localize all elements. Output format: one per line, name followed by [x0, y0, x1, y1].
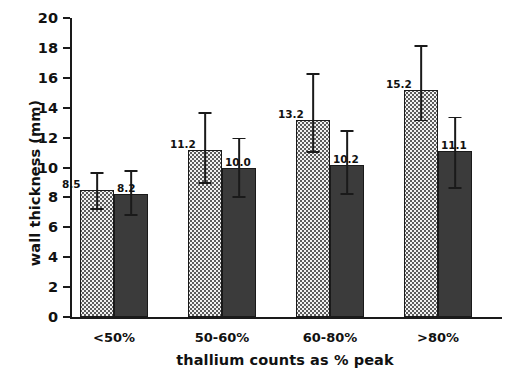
error-bar-cap-upper	[233, 138, 246, 140]
bar-value-label: 15.2	[386, 79, 412, 90]
bar-group: 13.210.2	[296, 18, 364, 317]
bar-value-label: 11.2	[170, 139, 196, 150]
error-bar-cap-lower	[341, 193, 354, 195]
error-bar-cap-upper	[199, 112, 212, 114]
error-bar-cap-lower	[199, 182, 212, 184]
error-bar-cap-upper	[449, 117, 462, 119]
y-axis-tick-label: 10	[38, 160, 58, 175]
y-axis-tick-label: 4	[48, 250, 58, 265]
error-bar	[204, 112, 206, 182]
error-bar-cap-lower	[91, 208, 104, 210]
y-axis-tick-mark	[63, 167, 70, 169]
y-axis-tick-label: 6	[48, 220, 58, 235]
y-axis-title: wall thickness (mm)	[27, 53, 43, 313]
bar-value-label: 8.5	[62, 179, 81, 190]
y-axis-tick-mark	[63, 17, 70, 19]
y-axis-tick-label: 16	[38, 71, 58, 86]
y-axis-tick-label: 14	[38, 100, 58, 115]
bar-value-label: 10.0	[225, 157, 251, 168]
y-axis-line	[70, 18, 72, 319]
y-axis-tick-label: 18	[38, 41, 58, 56]
y-axis-tick-mark	[63, 256, 70, 258]
x-axis-category-label: 60-80%	[303, 330, 358, 345]
y-axis-tick-label: 20	[38, 11, 58, 26]
y-axis-tick-mark	[63, 47, 70, 49]
y-axis-tick-mark	[63, 226, 70, 228]
y-axis-tick-mark	[63, 77, 70, 79]
y-axis-tick-mark	[63, 316, 70, 318]
error-bar-cap-lower	[415, 120, 428, 122]
y-axis-tick-mark	[63, 286, 70, 288]
y-axis-tick-label: 12	[38, 130, 58, 145]
error-bar-cap-lower	[449, 187, 462, 189]
error-bar-cap-lower	[125, 214, 138, 216]
x-axis-title: thallium counts as % peak	[70, 352, 500, 368]
x-axis-category-label: >80%	[417, 330, 459, 345]
error-bar-cap-lower	[233, 196, 246, 198]
bar-value-label: 13.2	[278, 109, 304, 120]
y-axis-tick-label: 8	[48, 190, 58, 205]
error-bar-cap-upper	[125, 170, 138, 172]
error-bar	[96, 172, 98, 208]
bar-value-label: 11.1	[441, 140, 467, 151]
y-axis-tick-mark	[63, 196, 70, 198]
bar-group: 15.211.1	[404, 18, 472, 317]
error-bar-cap-upper	[415, 45, 428, 47]
error-bar	[454, 117, 456, 187]
error-bar-cap-upper	[341, 130, 354, 132]
y-axis-tick-mark	[63, 107, 70, 109]
bar-group: 11.210.0	[188, 18, 256, 317]
y-axis-tick-label: 2	[48, 280, 58, 295]
error-bar-cap-upper	[307, 73, 320, 75]
x-axis-category-label: <50%	[93, 330, 135, 345]
x-axis-category-label: 50-60%	[195, 330, 250, 345]
error-bar	[420, 45, 422, 120]
error-bar	[312, 73, 314, 151]
x-axis-line	[70, 317, 502, 319]
y-axis-tick-mark	[63, 137, 70, 139]
y-axis-tick-label: 0	[48, 310, 58, 325]
error-bar-cap-upper	[91, 172, 104, 174]
bar-value-label: 8.2	[117, 183, 136, 194]
bar-group: 8.58.2	[80, 18, 148, 317]
bar-chart-figure: wall thickness (mm) thallium counts as %…	[0, 0, 512, 378]
bar-light	[404, 90, 438, 317]
bar-value-label: 10.2	[333, 154, 359, 165]
plot-area: 02468101214161820 8.58.211.210.013.210.2…	[70, 18, 502, 318]
error-bar-cap-lower	[307, 151, 320, 153]
